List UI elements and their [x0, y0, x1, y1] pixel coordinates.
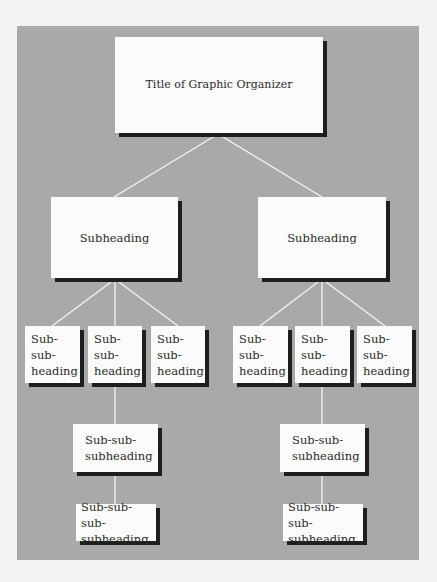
sub-sub-heading-box: Sub-sub- heading: [233, 326, 288, 383]
sub-sub-heading-box: Sub-sub- heading: [151, 326, 205, 383]
sub-sub-heading-box: Sub-sub- heading: [88, 326, 142, 383]
sub-sub-subheading-text: Sub-sub- subheading: [292, 432, 360, 464]
sub-sub-heading-text: Sub-sub- heading: [157, 331, 205, 379]
sub-sub-heading-box: Sub-sub- heading: [357, 326, 412, 383]
sub-sub-heading-text: Sub-sub- heading: [94, 331, 142, 379]
sub-sub-subheading-box: Sub-sub- subheading: [280, 424, 365, 472]
title-box: Title of Graphic Organizer: [115, 37, 323, 133]
title-text: Title of Graphic Organizer: [146, 77, 293, 93]
sub-sub-sub-subheading-text: Sub-sub-sub- subheading: [288, 499, 363, 547]
subheading-text: Subheading: [287, 230, 357, 246]
subheading-box-left: Subheading: [51, 197, 178, 278]
sub-sub-subheading-text: Sub-sub- subheading: [85, 432, 153, 464]
sub-sub-heading-text: Sub-sub- heading: [301, 331, 350, 379]
connector-title-right: [218, 134, 322, 197]
sub-sub-sub-subheading-box: Sub-sub-sub- subheading: [76, 504, 156, 541]
subheading-box-right: Subheading: [258, 197, 386, 278]
sub-sub-sub-subheading-text: Sub-sub-sub- subheading: [81, 499, 156, 547]
connector-title-left: [114, 134, 218, 197]
sub-sub-sub-subheading-box: Sub-sub-sub- subheading: [283, 504, 363, 541]
sub-sub-heading-text: Sub-sub- heading: [239, 331, 288, 379]
sub-sub-heading-text: Sub-sub- heading: [363, 331, 412, 379]
subheading-text: Subheading: [80, 230, 150, 246]
sub-sub-heading-box: Sub-sub- heading: [295, 326, 350, 383]
sub-sub-heading-text: Sub-sub- heading: [31, 331, 80, 379]
sub-sub-heading-box: Sub-sub- heading: [25, 326, 80, 383]
sub-sub-subheading-box: Sub-sub- subheading: [73, 424, 158, 472]
